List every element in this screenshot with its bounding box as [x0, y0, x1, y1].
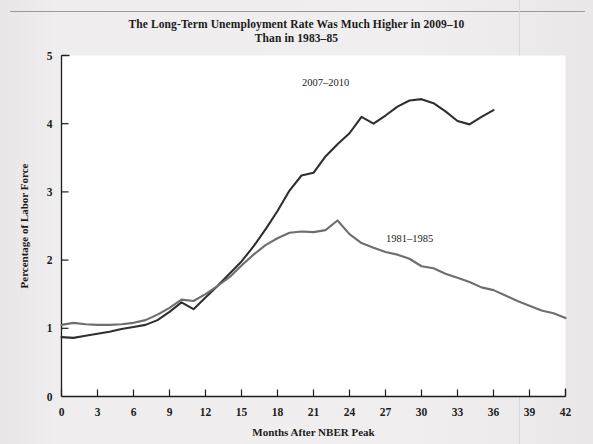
y-axis-title: Percentage of Labor Force	[18, 163, 30, 288]
x-tick-label: 24	[344, 406, 356, 418]
x-tick-label: 33	[452, 406, 464, 418]
line-chart-svg: 01234503691215182124273033363942Months A…	[0, 0, 593, 444]
x-tick-label: 12	[200, 406, 212, 418]
axes-group: 01234503691215182124273033363942Months A…	[18, 50, 572, 438]
y-tick-label: 3	[47, 186, 53, 198]
x-tick-label: 39	[524, 406, 536, 418]
y-tick-label: 2	[47, 254, 53, 266]
plot-area: 01234503691215182124273033363942Months A…	[0, 0, 593, 444]
plot-background	[62, 56, 566, 397]
x-tick-label: 42	[560, 406, 572, 418]
series-label-2: 1981–1985	[386, 233, 433, 244]
y-tick-label: 0	[47, 391, 53, 403]
x-tick-label: 36	[488, 406, 500, 418]
x-tick-label: 6	[131, 406, 137, 418]
series-label-1: 2007–2010	[302, 77, 349, 88]
x-tick-label: 9	[167, 406, 173, 418]
x-tick-label: 27	[380, 406, 392, 418]
y-tick-label: 1	[47, 322, 53, 334]
x-axis-title: Months After NBER Peak	[252, 426, 375, 438]
x-tick-label: 15	[236, 406, 248, 418]
x-tick-label: 3	[95, 406, 101, 418]
x-tick-label: 30	[416, 406, 428, 418]
y-tick-label: 5	[47, 50, 53, 62]
x-tick-label: 21	[308, 406, 320, 418]
x-tick-label: 0	[59, 406, 65, 418]
y-tick-label: 4	[47, 118, 53, 130]
figure-panel: The Long-Term Unemployment Rate Was Much…	[0, 0, 593, 444]
x-tick-label: 18	[272, 406, 284, 418]
